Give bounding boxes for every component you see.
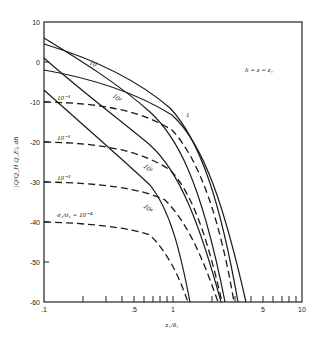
label-1e4: 10⁴ (142, 202, 155, 215)
y-tick-0: 0 (36, 59, 40, 66)
x-tick-0.5: .5 (131, 306, 137, 313)
x-tick-5: 5 (261, 306, 265, 313)
curve-labels: 10 10² 1 10³ 10⁴ 10⁻¹ 10⁻² 10⁻³ σ₁/σ₂ = … (57, 59, 190, 219)
curve-sigma-1e-4 (44, 222, 188, 302)
x-tick-10: 10 (298, 306, 306, 313)
dashed-curves (44, 102, 234, 302)
curve-1e4 (44, 90, 190, 302)
y-tick-m40: -40 (30, 219, 40, 226)
plot-frame (44, 22, 302, 302)
curve-sigma-1e-1 (44, 102, 234, 302)
y-tick-m30: -30 (30, 179, 40, 186)
y-tick-labels: 10 0 -10 -20 -30 -40 -50 -60 (30, 19, 40, 306)
chart: 10 0 -10 -20 -30 -40 -50 -60 .1 .5 1 5 1… (0, 0, 321, 347)
x-axis-title: z₁/δ₁ (165, 321, 179, 329)
label-1: 1 (186, 111, 190, 119)
curve-1 (44, 70, 246, 302)
label-1e3: 10³ (142, 162, 155, 175)
x-tick-0.1: .1 (41, 306, 47, 313)
label-sigma-1e-1: 10⁻¹ (57, 94, 70, 102)
x-tick-1: 1 (171, 306, 175, 313)
chart-annotation: h = z = z₁ (245, 66, 273, 74)
y-tick-m10: -10 (30, 99, 40, 106)
label-sigma-1e-3: 10⁻³ (57, 174, 71, 182)
y-axis-title: |Q/Q_H Q_E|, dB (12, 136, 20, 187)
y-tick-10: 10 (32, 19, 40, 26)
label-sigma-1e-2: 10⁻² (57, 134, 71, 142)
x-tick-labels: .1 .5 1 5 10 (41, 306, 306, 313)
label-sigma-1e-4: σ₁/σ₂ = 10⁻⁴ (57, 211, 93, 219)
y-tick-m20: -20 (30, 139, 40, 146)
y-tick-m50: -50 (30, 259, 40, 266)
curve-sigma-1e-3 (44, 182, 218, 302)
y-tick-m60: -60 (30, 299, 40, 306)
label-1e2: 10² (111, 92, 124, 104)
